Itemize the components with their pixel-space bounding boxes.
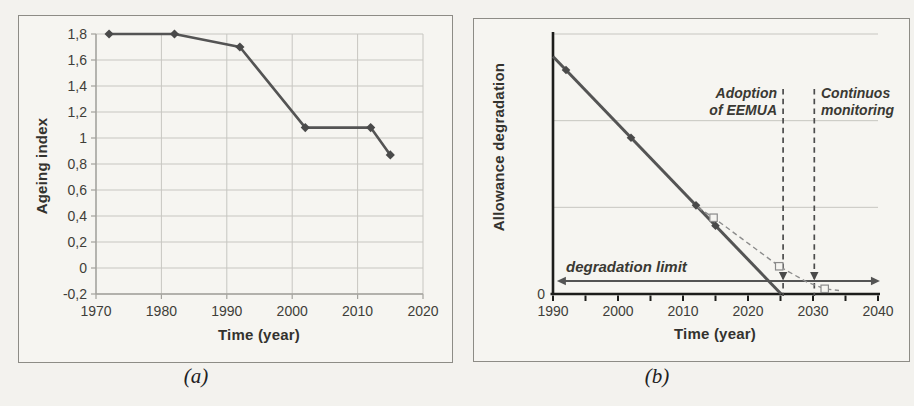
caption-b: (b): [645, 364, 670, 389]
x-tick-label: 2010: [342, 303, 373, 319]
y-tick-label: 0: [79, 260, 87, 276]
data-point: [104, 29, 113, 38]
x-tick-label: 2020: [407, 303, 438, 319]
annotation-degradation-limit: degradation limit: [566, 258, 687, 275]
caption-a: (a): [184, 364, 209, 389]
annotation-monitoring-line1: Continuos: [821, 85, 894, 102]
x-tick-label: 1990: [211, 303, 242, 319]
annotation-monitoring-line2: monitoring: [821, 102, 894, 119]
y-tick-label: 1,8: [68, 26, 88, 42]
square-data-point: [776, 263, 783, 270]
annotation-continuous-monitoring: Continuos monitoring: [821, 85, 894, 119]
y-tick-label: 0,2: [68, 234, 88, 250]
x-tick-label: 2020: [732, 303, 763, 319]
x-tick-label: 2010: [667, 303, 698, 319]
x-tick-label: 2040: [862, 303, 893, 319]
event-down-arrow: [810, 272, 818, 281]
chart-a-panel: 1970198019902000201020201,81,61,41,210,8…: [18, 15, 453, 363]
square-data-point: [821, 285, 828, 292]
x-tick-label: 2030: [797, 303, 828, 319]
y-tick-label: 0,6: [68, 182, 88, 198]
x-tick-label: 2000: [277, 303, 308, 319]
annotation-adoption-of-eemua: Adoption of EEMUA: [474, 85, 777, 119]
y-tick-label: 1,2: [68, 104, 88, 120]
square-data-point: [710, 214, 717, 221]
chart-a-x-axis-title: Time (year): [218, 326, 300, 343]
x-tick-label: 1970: [80, 303, 111, 319]
y-tick-label: 0: [537, 286, 545, 302]
y-tick-label: 1: [79, 130, 87, 146]
ageing-index-line: [109, 34, 390, 155]
chart-a-plot: 1970198019902000201020201,81,61,41,210,8…: [19, 16, 452, 362]
annotation-adoption-line1: Adoption: [474, 85, 777, 102]
limit-arrow-right: [871, 277, 880, 285]
y-tick-label: -0,2: [63, 286, 87, 302]
chart-a-y-axis-title: Ageing index: [33, 118, 50, 215]
x-tick-label: 2000: [602, 303, 633, 319]
event-down-arrow: [779, 272, 787, 281]
chart-b-x-axis-title: Time (year): [674, 325, 756, 342]
chart-b-plot: 1990200020102020203020400: [474, 19, 909, 361]
y-tick-label: 0,4: [68, 208, 88, 224]
chart-b-panel: 1990200020102020203020400 Allowance degr…: [473, 18, 910, 362]
figure-two-panel-chart: 1970198019902000201020201,81,61,41,210,8…: [0, 0, 914, 406]
y-tick-label: 0,8: [68, 156, 88, 172]
y-tick-label: 1,4: [68, 78, 88, 94]
annotation-adoption-line2: of EEMUA: [474, 102, 777, 119]
y-tick-label: 1,6: [68, 52, 88, 68]
data-point: [170, 29, 179, 38]
x-tick-label: 1980: [146, 303, 177, 319]
x-tick-label: 1990: [537, 303, 568, 319]
monitored-projection-line: [698, 207, 839, 290]
limit-arrow-left: [557, 277, 566, 285]
